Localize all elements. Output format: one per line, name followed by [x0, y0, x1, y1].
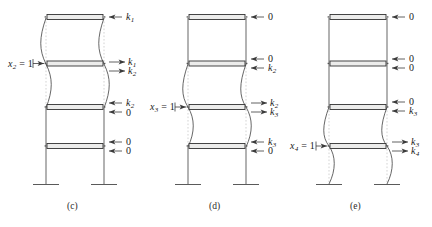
panel-e-force-label-2: 0	[409, 62, 414, 73]
caption-e: (e)	[350, 201, 361, 211]
panel-d-force-label-4: k3	[270, 106, 279, 119]
shear-building-stiffness-figure	[0, 0, 432, 227]
panel-e-force-label-6: k4	[411, 145, 420, 158]
panel-d-unit-displacement-arrow	[175, 103, 186, 112]
panel-d-force-label-0: 0	[268, 11, 273, 22]
panel-e-force-label-4: k3	[409, 105, 418, 118]
panel-e-floor-beams	[330, 15, 386, 149]
panel-e-joints	[328, 16, 389, 146]
panel-c-joints	[45, 16, 106, 146]
panel-c-force-label-2: k2	[128, 65, 137, 78]
panel-d-straight-columns-upper	[188, 18, 246, 64]
caption-c: (c)	[67, 201, 78, 211]
caption-d: (d)	[209, 201, 220, 211]
panel-c-force-label-6: 0	[126, 145, 131, 156]
panel-d-joints	[187, 16, 248, 146]
panel-d-force-label-2: k2	[268, 62, 277, 75]
panel-c	[33, 15, 125, 185]
panel-d-floor-beams	[189, 15, 245, 149]
panel-e-unit-displacement-arrow	[316, 142, 327, 151]
panel-c-force-arrows	[109, 17, 125, 151]
panel-c-force-label-4: 0	[126, 107, 131, 118]
panel-e-force-label-0: 0	[409, 11, 414, 22]
panel-d-straight-columns-lower	[188, 147, 246, 184]
panel-d-dof-label: x3 = 1	[150, 101, 175, 114]
panel-d-force-label-6: 0	[268, 145, 273, 156]
panel-d	[175, 15, 267, 185]
panel-e-dof-label: x4 = 1	[290, 140, 315, 153]
panel-e-force-arrows	[392, 17, 408, 151]
panel-c-floor-beams	[47, 15, 103, 149]
panel-c-force-label-0: k1	[126, 11, 135, 24]
panel-e	[316, 15, 408, 185]
panel-c-unit-displacement-arrow	[33, 59, 44, 68]
panel-d-force-arrows	[251, 17, 267, 151]
panel-c-dof-label: x2 = 1	[8, 58, 33, 71]
